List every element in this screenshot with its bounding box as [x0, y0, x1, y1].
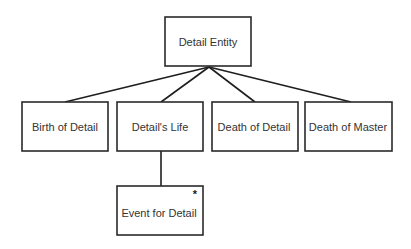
node-birth: Birth of Detail	[22, 102, 108, 151]
node-label: Detail Entity	[179, 36, 238, 48]
node-life: Detail's Life	[117, 102, 203, 151]
node-root: Detail Entity	[165, 17, 251, 66]
node-death-detail: Death of Detail	[212, 102, 298, 151]
node-label: Event for Detail	[121, 207, 196, 219]
node-death-master: Death of Master	[305, 102, 392, 151]
node-label: Death of Detail	[218, 121, 291, 133]
node-label: Death of Master	[309, 121, 388, 133]
node-label: Detail's Life	[132, 121, 189, 133]
iteration-marker: *	[193, 188, 198, 200]
edge-root-to-death-master	[209, 67, 351, 102]
node-label: Birth of Detail	[32, 121, 98, 133]
structure-diagram: Detail EntityBirth of DetailDetail's Lif…	[0, 0, 411, 249]
edge-root-to-birth	[65, 67, 209, 102]
node-event: Event for Detail*	[117, 186, 203, 235]
